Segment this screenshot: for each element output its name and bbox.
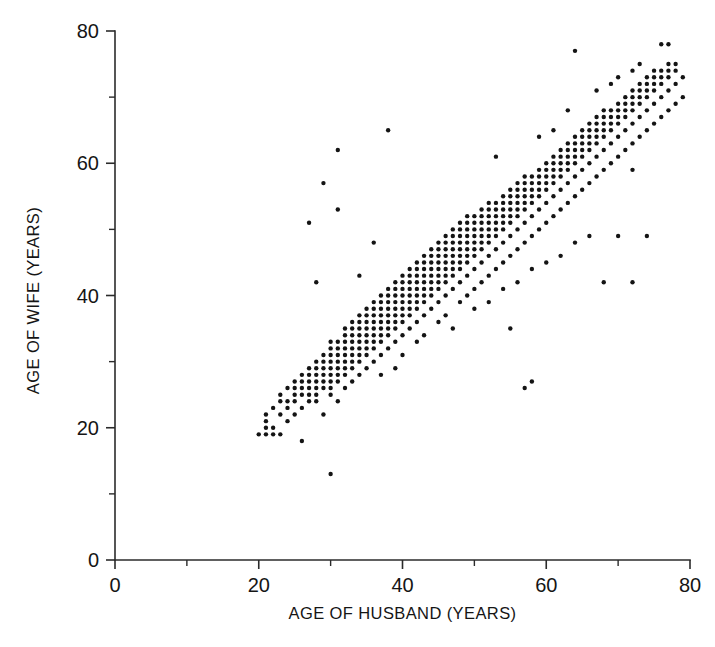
data-point [515,181,519,185]
data-point [328,373,332,377]
data-point [285,419,289,423]
data-point [508,326,512,330]
data-point [515,280,519,284]
data-points [257,42,685,476]
data-point [271,426,275,430]
data-point [393,366,397,370]
data-point [522,240,526,244]
data-point [630,88,634,92]
data-point [357,320,361,324]
data-point [515,247,519,251]
data-point [379,307,383,311]
data-point [436,300,440,304]
data-point [494,154,498,158]
data-point [364,353,368,357]
data-point [637,88,641,92]
data-point [537,194,541,198]
data-point [357,346,361,350]
data-point [436,320,440,324]
data-point [415,280,419,284]
data-point [357,333,361,337]
data-point [602,168,606,172]
data-point [537,168,541,172]
data-point [630,95,634,99]
data-point [558,154,562,158]
data-point [594,128,598,132]
data-point [515,214,519,218]
data-point [587,141,591,145]
data-point [364,313,368,317]
data-point [602,135,606,139]
data-point [307,392,311,396]
data-point [637,135,641,139]
data-point [530,181,534,185]
data-point [386,300,390,304]
data-point [314,366,318,370]
data-point [652,68,656,72]
data-point [372,320,376,324]
data-point [314,399,318,403]
data-point [278,392,282,396]
data-point [472,267,476,271]
data-point [292,386,296,390]
data-point [372,346,376,350]
data-point [307,366,311,370]
data-point [472,287,476,291]
data-point [328,392,332,396]
data-point [357,313,361,317]
data-point [458,247,462,251]
data-point [314,386,318,390]
data-point [666,62,670,66]
data-point [472,227,476,231]
data-point [645,82,649,86]
data-point [436,260,440,264]
data-point [436,240,440,244]
data-point [544,181,548,185]
data-point [436,254,440,258]
data-point [508,207,512,211]
data-point [609,121,613,125]
data-point [566,108,570,112]
data-point [264,426,268,430]
data-point [487,227,491,231]
data-point [443,293,447,297]
data-point [465,227,469,231]
data-point [407,300,411,304]
data-point [343,373,347,377]
data-point [278,399,282,403]
data-point [616,154,620,158]
data-point [573,240,577,244]
data-point [443,273,447,277]
data-point [508,214,512,218]
data-point [271,406,275,410]
data-point [537,135,541,139]
x-tick-label-40: 40 [391,574,413,596]
data-point [364,346,368,350]
data-point [479,280,483,284]
data-point [321,353,325,357]
data-point [285,406,289,410]
data-point [328,353,332,357]
data-point [271,432,275,436]
data-point [292,379,296,383]
data-point [336,207,340,211]
data-point [530,201,534,205]
x-axis-title-text: AGE OF HUSBAND (YEARS) [115,604,690,623]
data-point [285,399,289,403]
data-point [623,108,627,112]
data-point [609,115,613,119]
data-point [422,300,426,304]
data-point [458,240,462,244]
data-point [343,386,347,390]
data-point [451,267,455,271]
data-point [673,102,677,106]
data-point [386,320,390,324]
data-point [681,75,685,79]
data-point [609,108,613,112]
data-point [587,181,591,185]
data-point [465,240,469,244]
data-point [451,227,455,231]
data-point [264,419,268,423]
data-point [422,254,426,258]
data-point [400,293,404,297]
